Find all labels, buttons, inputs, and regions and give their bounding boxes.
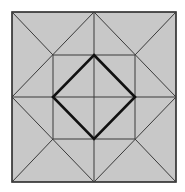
- geometric-diagram: [0, 0, 185, 192]
- thin-lines: [12, 12, 176, 182]
